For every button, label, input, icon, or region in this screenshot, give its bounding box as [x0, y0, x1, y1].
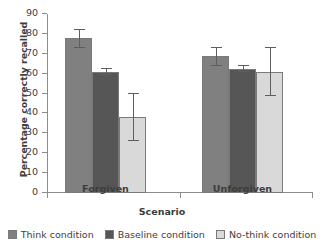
- error-bar-cap-upper: [265, 47, 276, 48]
- error-bar: [270, 48, 271, 96]
- y-axis-tick-label: 90: [26, 7, 38, 18]
- bar: [92, 72, 119, 193]
- legend-swatch-icon: [8, 230, 17, 239]
- y-axis-tick: 70: [42, 53, 47, 54]
- y-axis-tick: 60: [42, 73, 47, 74]
- x-axis-tick: [312, 193, 313, 198]
- legend-label: No-think condition: [229, 229, 316, 240]
- legend-item: Baseline condition: [105, 229, 205, 240]
- y-axis-tick-label: 60: [26, 67, 38, 78]
- legend-item: Think condition: [8, 229, 94, 240]
- bar: [65, 38, 92, 193]
- error-bar-cap-upper: [238, 65, 249, 66]
- y-axis-tick-label: 70: [26, 47, 38, 58]
- y-axis-tick: 20: [42, 152, 47, 153]
- x-axis-group-label: Unforgiven: [193, 183, 293, 194]
- error-bar-cap-lower: [128, 140, 139, 141]
- y-axis-tick: 40: [42, 112, 47, 113]
- bar-chart-figure: Percentage correctly recalled 0102030405…: [0, 0, 324, 252]
- error-bar-cap-upper: [74, 29, 85, 30]
- chart-legend: Think conditionBaseline conditionNo-thin…: [0, 229, 324, 240]
- error-bar-cap-lower: [238, 71, 249, 72]
- y-axis-tick: 30: [42, 132, 47, 133]
- legend-label: Baseline condition: [118, 229, 205, 240]
- y-axis-tick-label: 80: [26, 27, 38, 38]
- y-axis-tick-label: 40: [26, 106, 38, 117]
- x-axis-tick: [47, 193, 48, 198]
- plot-area: 0102030405060708090: [47, 14, 313, 193]
- legend-swatch-icon: [105, 230, 114, 239]
- error-bar-cap-upper: [211, 47, 222, 48]
- y-axis-tick: 90: [42, 13, 47, 14]
- legend-label: Think condition: [21, 229, 94, 240]
- y-axis-tick-label: 0: [32, 186, 38, 197]
- y-axis-tick-label: 10: [26, 166, 38, 177]
- error-bar: [133, 94, 134, 142]
- y-axis-tick-label: 30: [26, 126, 38, 137]
- y-axis-tick: 50: [42, 93, 47, 94]
- legend-item: No-think condition: [216, 229, 316, 240]
- legend-swatch-icon: [216, 230, 225, 239]
- x-axis-tick: [180, 193, 181, 198]
- error-bar-cap-lower: [74, 47, 85, 48]
- error-bar-cap-lower: [211, 65, 222, 66]
- y-axis-line: [47, 14, 48, 193]
- bar: [229, 69, 256, 193]
- error-bar: [216, 48, 217, 66]
- y-axis-tick-label: 50: [26, 87, 38, 98]
- x-axis-title: Scenario: [0, 206, 324, 217]
- y-axis-tick-label: 20: [26, 146, 38, 157]
- error-bar-cap-upper: [101, 68, 112, 69]
- y-axis-tick: 80: [42, 33, 47, 34]
- error-bar: [79, 30, 80, 48]
- bar: [202, 56, 229, 193]
- error-bar-cap-lower: [101, 74, 112, 75]
- x-axis-group-label: Forgiven: [56, 183, 156, 194]
- error-bar-cap-lower: [265, 95, 276, 96]
- y-axis-tick: 10: [42, 172, 47, 173]
- error-bar-cap-upper: [128, 93, 139, 94]
